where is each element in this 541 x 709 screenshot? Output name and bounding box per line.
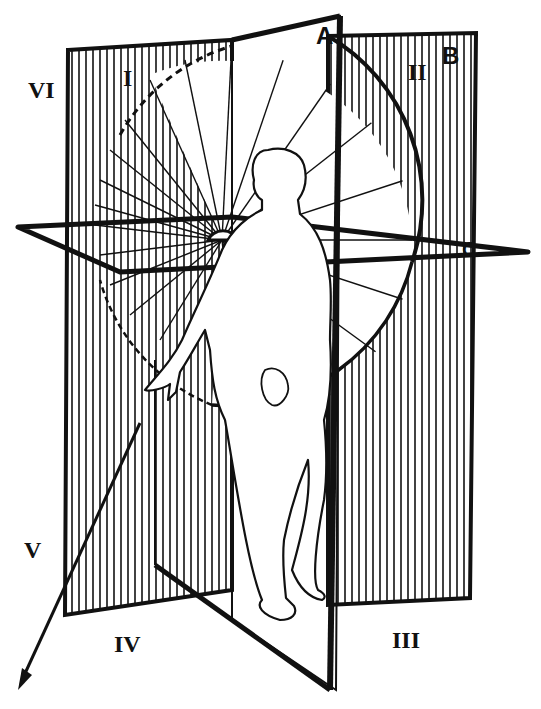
quadrant-label-iv: IV [114,631,141,657]
plane-label-a: A [316,22,333,49]
plane-label-b: B [442,42,459,69]
anatomical-planes-diagram: A B C I II III IV V VI [0,0,541,709]
quadrant-label-v: V [24,537,42,563]
plane-label-c: C [460,237,478,261]
quadrant-label-ii: II [408,59,427,85]
quadrant-label-iii: III [392,627,420,653]
quadrant-label-vi: VI [28,77,55,103]
quadrant-label-i: I [123,65,132,91]
